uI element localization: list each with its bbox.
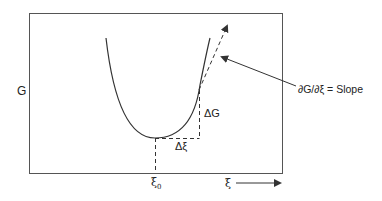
tangent-line (199, 26, 227, 90)
delta-xi-label: Δξ (175, 140, 187, 152)
slope-pointer-arrow (222, 57, 296, 86)
plot-frame (30, 14, 283, 174)
minimum-label: ξ0 (151, 176, 162, 191)
x-axis-label: ξ (225, 177, 231, 190)
y-axis-label: G (17, 84, 26, 98)
delta-g-label: ΔG (204, 107, 220, 119)
gibbs-energy-curve (106, 38, 210, 138)
slope-annotation: ∂G/∂ξ = Slope (298, 83, 363, 95)
gibbs-energy-diagram: G ΔG Δξ ξ0 ξ ∂G/∂ξ = Slope (0, 0, 382, 201)
